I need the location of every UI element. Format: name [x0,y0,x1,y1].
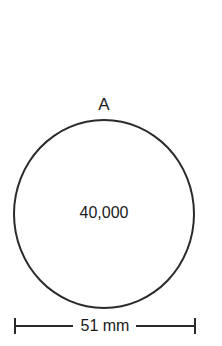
dimension-line-right [136,325,194,327]
dimension-tick-right [194,318,196,334]
circle-diagram: A 40,000 51 mm [0,0,222,346]
center-value-label: 40,000 [54,203,154,223]
dimension-label: 51 mm [74,316,136,336]
point-label-a: A [84,95,124,115]
dimension-line-left [15,325,73,327]
